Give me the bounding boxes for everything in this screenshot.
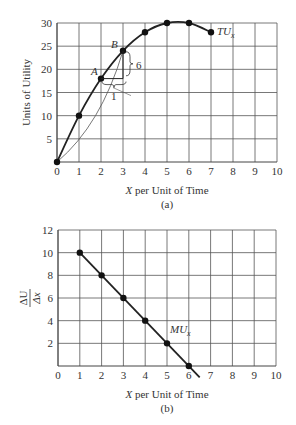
data-point (208, 29, 214, 35)
run-label: 1 (111, 90, 117, 102)
y-axis-label: ΔUΔx (17, 289, 42, 307)
data-point (54, 159, 60, 165)
x-tick-label: 5 (164, 165, 170, 177)
x-tick-label: 5 (164, 369, 170, 381)
x-axis-label: X per Unit of Time (124, 184, 208, 196)
y-tick-label: 30 (41, 17, 53, 29)
data-point (77, 249, 83, 255)
x-tick-label: 4 (142, 369, 148, 381)
chart-canvas: 01234567891051015202530X per Unit of Tim… (0, 0, 296, 425)
tu-curve-label: TUx (217, 25, 235, 40)
data-point (142, 317, 148, 323)
mu-line-label: MUx (169, 323, 191, 338)
x-tick-label: 10 (271, 369, 283, 381)
y-axis-label: Units of Utility (20, 58, 32, 126)
y-tick-label: 15 (41, 87, 53, 99)
x-axis-label: X per Unit of Time (124, 388, 208, 400)
x-tick-label: 0 (54, 165, 60, 177)
y-tick-label: 20 (41, 63, 53, 75)
y-tick-label: 8 (48, 269, 54, 281)
x-tick-label: 7 (208, 369, 214, 381)
chord-line (57, 51, 123, 162)
y-tick-label: 10 (41, 110, 53, 122)
y-tick-label: 4 (48, 315, 54, 327)
x-tick-label: 9 (252, 165, 258, 177)
y-tick-label: 5 (47, 133, 53, 145)
panel-label: (b) (161, 402, 174, 415)
data-point (186, 20, 192, 26)
y-label-numerator: ΔU (17, 290, 29, 305)
x-tick-label: 8 (230, 165, 236, 177)
x-tick-label: 3 (121, 369, 127, 381)
x-tick-label: 3 (120, 165, 126, 177)
data-point (76, 112, 82, 118)
x-tick-label: 1 (76, 165, 82, 177)
data-point (164, 340, 170, 346)
y-tick-label: 12 (42, 224, 53, 236)
panel-label: (a) (161, 198, 174, 211)
rise-label: 6 (136, 59, 142, 71)
x-tick-label: 10 (272, 165, 284, 177)
y-label-denominator: Δx (30, 292, 42, 304)
x-tick-label: 2 (99, 369, 105, 381)
x-tick-label: 1 (77, 369, 83, 381)
x-tick-label: 4 (142, 165, 148, 177)
data-point (142, 29, 148, 35)
point-a-label: A (90, 65, 98, 77)
y-tick-label: 10 (42, 247, 54, 259)
y-tick-label: 6 (48, 292, 54, 304)
run-brace (102, 82, 126, 88)
y-tick-label: 2 (48, 337, 54, 349)
panel-b-marginal-utility: 01234567891024681012X per Unit of Time(b… (17, 224, 282, 415)
x-tick-label: 6 (186, 369, 192, 381)
grid (57, 23, 277, 162)
data-point (98, 272, 104, 278)
x-tick-label: 7 (208, 165, 214, 177)
y-tick-label: 25 (41, 40, 53, 52)
data-point (186, 363, 192, 369)
rise-brace (126, 52, 133, 76)
panel-a-total-utility: 01234567891051015202530X per Unit of Tim… (20, 17, 283, 211)
x-tick-label: 8 (230, 369, 236, 381)
x-tick-label: 9 (251, 369, 257, 381)
tu-curve (57, 22, 211, 162)
x-tick-label: 6 (186, 165, 192, 177)
x-tick-label: 0 (55, 369, 61, 381)
data-point (164, 20, 170, 26)
point-b-label: B (111, 38, 118, 50)
x-tick-label: 2 (98, 165, 104, 177)
mu-line (80, 253, 200, 378)
data-point (120, 295, 126, 301)
